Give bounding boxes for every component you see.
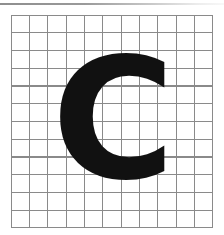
letter-c-glyph: C <box>11 15 213 228</box>
glyph-container: C <box>11 15 213 228</box>
top-edge-rule <box>0 3 224 5</box>
page-canvas: C <box>0 0 224 235</box>
letter-c-text: C <box>52 22 175 218</box>
